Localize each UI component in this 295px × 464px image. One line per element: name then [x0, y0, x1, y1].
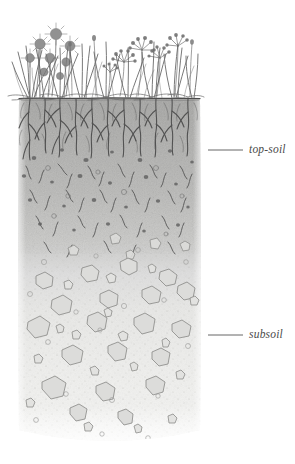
vegetation [8, 23, 204, 100]
soil-column [10, 96, 210, 455]
label-top-soil: top-soil [249, 143, 286, 155]
soil-profile-svg [0, 0, 295, 464]
soil-profile-illustration: top-soil subsoil [0, 0, 295, 464]
label-leader-lines [208, 150, 243, 335]
label-subsoil: subsoil [249, 328, 283, 340]
